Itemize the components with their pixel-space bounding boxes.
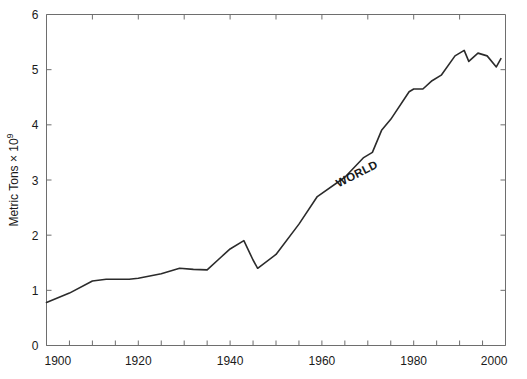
y-tick-label-0: 0 <box>32 339 39 353</box>
y-tick-label-3: 3 <box>32 174 39 188</box>
y-tick-label-6: 6 <box>32 8 39 22</box>
x-tick-label-1920: 1920 <box>125 354 152 368</box>
y-tick-label-4: 4 <box>32 118 39 132</box>
y-axis-title: Metric Tons × 109 <box>5 133 21 226</box>
y-tick-label-1: 1 <box>32 284 39 298</box>
x-tick-label-1940: 1940 <box>217 354 244 368</box>
x-tick-label-1980: 1980 <box>400 354 427 368</box>
y-tick-label-5: 5 <box>32 63 39 77</box>
y-axis-title-base: Metric Tons × 10 <box>7 138 21 226</box>
y-axis-title-exponent: 9 <box>5 133 15 138</box>
x-tick-label-2000: 2000 <box>481 354 508 368</box>
x-tick-label-1900: 1900 <box>45 354 72 368</box>
x-tick-label-1960: 1960 <box>309 354 336 368</box>
chart-figure: 0123456 190019201940196019802000 Metric … <box>0 0 527 379</box>
x-axis-ticks <box>47 341 506 346</box>
y-tick-label-2: 2 <box>32 229 39 243</box>
chart-background <box>0 0 527 379</box>
line-chart: 0123456 190019201940196019802000 Metric … <box>0 0 527 379</box>
y-axis-title-text: Metric Tons × 109 <box>5 133 21 226</box>
